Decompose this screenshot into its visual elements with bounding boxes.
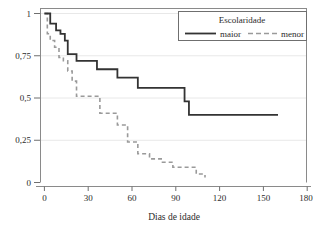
chart-legend[interactable]: Escolaridade maior menor [179,12,307,41]
x-tick-label-30: 30 [84,193,94,203]
x-tick-label-0: 0 [42,193,47,203]
x-tick-label-120: 120 [213,193,227,203]
x-tick-label-90: 90 [171,193,181,203]
x-tick-label-180: 180 [299,193,313,203]
legend-label-menor: menor [281,29,304,39]
x-axis-title: Dias de idade [148,212,200,222]
y-tick-label-0: 0 [27,178,32,188]
y-tick-label-025: 0,25 [15,135,31,145]
legend-label-maior: maior [220,29,241,39]
x-tick-label-150: 150 [257,193,271,203]
x-tick-label-60: 60 [128,193,138,203]
survival-chart-figure: 1 0,75 0,5 0,25 0 0 30 60 90 120 150 180… [0,0,330,231]
legend-title: Escolaridade [219,15,265,25]
y-tick-label-05: 0,5 [20,93,32,103]
y-tick-label-075: 0,75 [15,51,31,61]
y-tick-label-1: 1 [27,9,32,19]
chart-canvas: 1 0,75 0,5 0,25 0 0 30 60 90 120 150 180… [0,0,330,231]
